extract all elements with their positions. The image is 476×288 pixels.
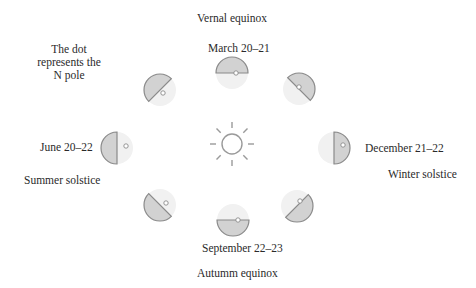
earth-september: [217, 204, 249, 236]
pole-note-line3: N pole: [34, 69, 104, 82]
autumn-equinox-label: Autumm equinox: [197, 267, 278, 280]
earth-december: [318, 132, 350, 164]
earth-march: [216, 57, 248, 89]
vernal-equinox-label: Vernal equinox: [197, 12, 267, 25]
pole-note-line1: The dot: [34, 43, 104, 56]
winter-solstice-label: Winter solstice: [388, 168, 457, 181]
north-pole-dot: [297, 85, 301, 89]
north-pole-dot: [124, 144, 128, 148]
earth-top-left: [137, 67, 182, 112]
september-date-label: September 22–23: [202, 242, 283, 255]
pole-note-line2: represents the: [34, 56, 104, 69]
summer-solstice-label: Summer solstice: [24, 174, 100, 187]
north-pole-dot: [298, 199, 302, 203]
earth-bottom-left: [137, 182, 182, 227]
december-date-label: December 21–22: [365, 142, 444, 155]
earth-june: [101, 132, 133, 164]
sun-icon: [210, 122, 254, 166]
north-pole-dot: [164, 201, 168, 205]
north-pole-dot: [341, 143, 345, 147]
pole-note: The dot represents the N pole: [34, 43, 104, 82]
june-date-label: June 20–22: [40, 141, 93, 154]
north-pole-dot: [161, 91, 165, 95]
march-date-label: March 20–21: [208, 42, 270, 55]
earth-bottom-right: [274, 183, 319, 228]
north-pole-dot: [234, 71, 238, 75]
north-pole-dot: [236, 218, 240, 222]
